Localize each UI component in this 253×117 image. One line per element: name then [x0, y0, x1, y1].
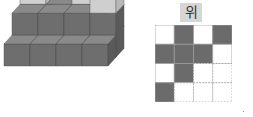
grid-cell-white: [155, 25, 174, 44]
grid-cell-white: [155, 64, 174, 83]
grid-cell-white: [213, 44, 232, 63]
grid-cell-white: [194, 25, 213, 44]
grid-cell-dark: [213, 25, 232, 44]
stray-mark: [243, 111, 244, 112]
grid-cell-dark: [174, 64, 193, 83]
grid-cell-white-dashed: [194, 83, 213, 102]
grid-cell-white-dashed: [213, 83, 232, 102]
cube-dark: [82, 35, 116, 66]
grid-cell-dark: [155, 83, 174, 102]
grid-cell-white-dashed: [194, 64, 213, 83]
grid-cell-dark: [155, 44, 174, 63]
grid-cell-dark: [174, 25, 193, 44]
grid-cell-white-dashed: [174, 83, 193, 102]
top-view-grid: [155, 25, 232, 102]
isometric-cube-stack: [0, 0, 130, 117]
grid-cell-dark: [174, 44, 193, 63]
grid-cell-dark: [194, 44, 213, 63]
grid-cell-white-dashed: [213, 64, 232, 83]
top-view-label: 위: [180, 3, 202, 22]
